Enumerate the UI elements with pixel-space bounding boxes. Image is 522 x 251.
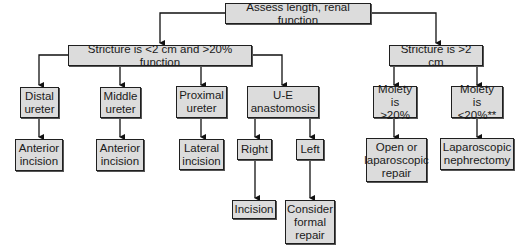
node-consider-formal-repair: Consider formal repair bbox=[285, 200, 335, 244]
node-moiety-lt-20: Moiety is <20%** bbox=[451, 86, 503, 118]
node-proximal-ureter: Proximal ureter bbox=[176, 86, 227, 118]
node-right: Right bbox=[237, 139, 272, 160]
node-label: Right bbox=[241, 143, 268, 156]
node-left: Left bbox=[296, 139, 324, 160]
node-label: Open or laparoscopic repair bbox=[364, 141, 429, 180]
node-label: Moiety is >20% bbox=[377, 83, 413, 122]
node-stricture-long: Stricture is >2 cm bbox=[389, 45, 483, 66]
node-label: Lateral incision bbox=[182, 142, 220, 168]
node-label: Moiety is <20%** bbox=[455, 83, 499, 122]
node-label: Middle ureter bbox=[104, 90, 138, 116]
node-assess-length: Assess length, renal function bbox=[225, 3, 371, 24]
node-label: Anterior incision bbox=[19, 142, 59, 168]
node-stricture-short: Stricture is <2 cm and >20% function bbox=[68, 45, 252, 66]
node-moiety-gt-20: Moiety is >20% bbox=[373, 86, 417, 118]
node-incision: Incision bbox=[232, 200, 276, 219]
node-label: Incision bbox=[235, 203, 274, 216]
node-label: Distal ureter bbox=[24, 90, 54, 116]
node-label: Stricture is <2 cm and >20% function bbox=[72, 43, 248, 69]
node-laparoscopic-nephrectomy: Laparoscopic nephrectomy bbox=[440, 138, 514, 170]
node-label: Consider formal repair bbox=[287, 203, 333, 242]
node-label: Assess length, renal function bbox=[229, 1, 367, 27]
node-middle-anterior-incision: Anterior incision bbox=[96, 139, 144, 171]
node-label: Left bbox=[300, 143, 319, 156]
node-label: Anterior incision bbox=[100, 142, 140, 168]
node-label: Stricture is >2 cm bbox=[393, 43, 479, 69]
node-distal-anterior-incision: Anterior incision bbox=[15, 139, 63, 171]
node-lateral-incision: Lateral incision bbox=[179, 139, 224, 170]
node-ue-anastomosis: U-E anastomosis bbox=[247, 86, 319, 118]
node-middle-ureter: Middle ureter bbox=[100, 87, 141, 118]
node-open-laparoscopic-repair: Open or laparoscopic repair bbox=[366, 138, 427, 182]
node-label: Laparoscopic nephrectomy bbox=[443, 141, 511, 167]
node-distal-ureter: Distal ureter bbox=[20, 87, 59, 118]
node-label: U-E anastomosis bbox=[251, 89, 316, 115]
node-label: Proximal ureter bbox=[179, 89, 224, 115]
